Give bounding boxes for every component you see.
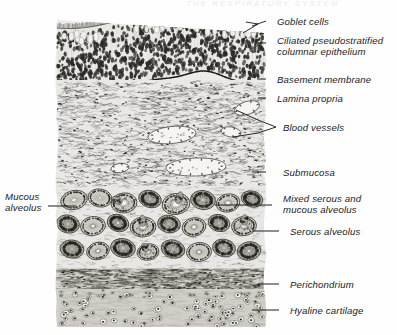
label-hyaline-cartilage: Hyaline cartilage [290, 305, 363, 316]
page-header: THE RESPIRATORY SYSTEM [186, 0, 396, 6]
label-submucosa: Submucosa [283, 167, 335, 178]
label-serous-alveolus: Serous alveolus [290, 226, 361, 237]
label-mixed-alveolus-line1: Mixed serous and [283, 193, 361, 204]
label-perichondrium-line1: Perichondrium [290, 279, 354, 290]
label-perichondrium: Perichondrium [290, 279, 354, 290]
label-lamina-propria: Lamina propria [277, 93, 343, 104]
label-blood-vessels: Blood vessels [283, 122, 344, 133]
label-lamina-propria-line1: Lamina propria [277, 93, 343, 104]
label-goblet-cells-line1: Goblet cells [277, 16, 329, 27]
label-blood-vessels-line1: Blood vessels [283, 122, 344, 133]
label-ciliated-epithelium-line2: columnar epithelium [277, 46, 383, 57]
label-serous-alveolus-line1: Serous alveolus [290, 226, 361, 237]
label-submucosa-line1: Submucosa [283, 167, 335, 178]
label-mucous-alveolus: Mucousalveolus [5, 191, 41, 214]
label-mucous-alveolus-line1: Mucous [5, 191, 41, 202]
histology-figure: THE RESPIRATORY SYSTEM Goblet cellsCilia… [0, 0, 397, 335]
label-hyaline-cartilage-line1: Hyaline cartilage [290, 305, 363, 316]
label-mixed-alveolus-line2: mucous alveolus [283, 204, 361, 215]
label-mixed-alveolus: Mixed serous andmucous alveolus [283, 193, 361, 216]
label-basement-membrane: Basement membrane [277, 74, 371, 85]
label-goblet-cells: Goblet cells [277, 16, 329, 27]
label-ciliated-epithelium-line1: Ciliated pseudostratified [277, 35, 383, 46]
label-basement-membrane-line1: Basement membrane [277, 74, 371, 85]
label-ciliated-epithelium: Ciliated pseudostratifiedcolumnar epithe… [277, 35, 383, 58]
label-mucous-alveolus-line2: alveolus [5, 202, 41, 213]
